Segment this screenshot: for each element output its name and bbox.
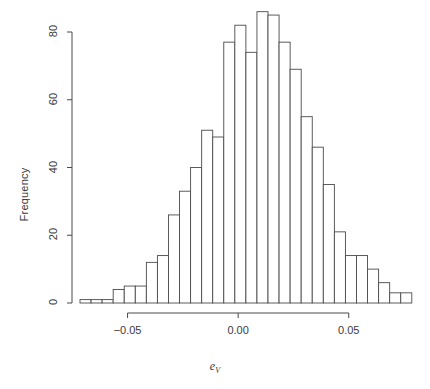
histogram-bar: [268, 15, 279, 303]
histogram-bar: [135, 286, 146, 303]
histogram-bar: [312, 147, 323, 303]
x-tick-label: −0.05: [108, 324, 148, 336]
histogram-bar: [191, 168, 202, 304]
histogram-bar: [80, 300, 91, 303]
y-tick-label: 40: [47, 156, 59, 178]
histogram-bar: [124, 286, 135, 303]
histogram-bar: [224, 42, 235, 303]
histogram-bar: [213, 137, 224, 303]
histogram-bar: [202, 130, 213, 303]
histogram-bar: [390, 293, 401, 303]
histogram-bar: [345, 256, 356, 303]
histogram-bar: [146, 262, 157, 303]
y-tick-label: 0: [47, 291, 59, 313]
histogram-bar: [257, 12, 268, 303]
histogram-bar: [379, 283, 390, 303]
x-tick-label: 0.00: [218, 324, 258, 336]
histogram-bar: [91, 300, 102, 303]
x-tick-label: 0.05: [329, 324, 369, 336]
histogram-bar: [102, 300, 113, 303]
histogram-bar: [246, 52, 257, 303]
y-tick-label: 20: [47, 223, 59, 245]
histogram-bar: [290, 69, 301, 303]
y-tick-label: 60: [47, 88, 59, 110]
histogram-bar: [323, 184, 334, 303]
histogram-bar: [334, 232, 345, 303]
y-axis-label: Frequency: [18, 0, 36, 389]
histogram-bar: [401, 293, 412, 303]
histogram-bar: [301, 117, 312, 303]
histogram-bar: [368, 269, 379, 303]
x-axis-label-subscript: V: [215, 366, 220, 375]
histogram-bar: [180, 191, 191, 303]
y-axis-label-text: Frequency: [18, 0, 30, 389]
histogram-bar: [113, 289, 124, 303]
histogram-bar: [157, 256, 168, 303]
x-axis-label: eV: [0, 359, 430, 375]
histogram-bar: [168, 215, 179, 303]
y-tick-label: 80: [47, 20, 59, 42]
histogram-bar: [235, 25, 246, 303]
histogram-bar: [279, 42, 290, 303]
histogram-bar: [356, 256, 367, 303]
